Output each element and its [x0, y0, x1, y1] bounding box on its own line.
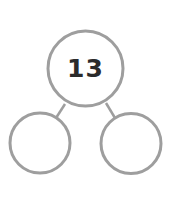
whole-value: 13 — [47, 30, 124, 107]
part-value-right — [101, 113, 161, 173]
part-value-left — [10, 113, 70, 173]
